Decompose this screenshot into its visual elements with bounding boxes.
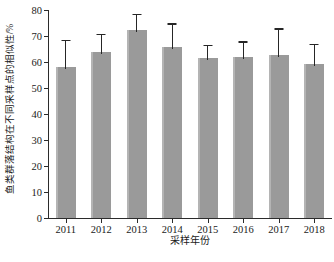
y-tick-mark (44, 192, 48, 193)
bar (56, 67, 76, 218)
bar (233, 57, 253, 218)
x-tick-mark (66, 219, 67, 223)
y-tick-mark (44, 218, 48, 219)
error-bar-cap (203, 45, 212, 46)
bar-highlight (56, 67, 58, 218)
error-bar-cap (61, 40, 70, 41)
x-axis-spine (48, 218, 332, 219)
chart-figure: 鱼类群落结构在不同采样点的相似性/% 01020304050607080 201… (0, 0, 334, 262)
y-tick-mark (44, 166, 48, 167)
y-tick-label: 80 (32, 5, 43, 16)
error-bar-line (278, 28, 279, 57)
bar-highlight (91, 52, 93, 218)
y-tick-label: 10 (32, 187, 43, 198)
x-tick-mark (208, 219, 209, 223)
y-tick-label: 20 (32, 161, 43, 172)
error-bar-line (207, 45, 208, 60)
y-axis-spine (48, 10, 49, 219)
bar-highlight (269, 55, 271, 218)
error-bar-line (136, 14, 137, 32)
x-tick-mark (172, 219, 173, 223)
bar-highlight (304, 64, 306, 218)
bar (162, 47, 182, 218)
bar (127, 30, 147, 218)
x-tick-mark (243, 219, 244, 223)
x-tick-mark (279, 219, 280, 223)
y-tick-mark (44, 140, 48, 141)
y-axis-title: 鱼类群落结构在不同采样点的相似性/% (2, 0, 18, 218)
y-tick-label: 70 (32, 31, 43, 42)
plot-area: 01020304050607080 2011201220132014201520… (48, 10, 332, 218)
error-bar-line (101, 34, 102, 54)
error-bar-line (314, 44, 315, 66)
y-tick-mark (44, 36, 48, 37)
error-bar-line (172, 23, 173, 49)
bar (198, 58, 218, 218)
bar (91, 52, 111, 218)
error-bar-cap (310, 44, 319, 45)
x-axis-title: 采样年份 (48, 232, 332, 247)
y-tick-mark (44, 114, 48, 115)
bar-highlight (127, 30, 129, 218)
bar-highlight (162, 47, 164, 218)
y-tick-mark (44, 88, 48, 89)
error-bar-cap (274, 28, 283, 29)
y-tick-mark (44, 10, 48, 11)
bar (304, 64, 324, 218)
bar-highlight (233, 57, 235, 218)
y-tick-label: 0 (37, 213, 42, 224)
error-bar-cap (239, 41, 248, 42)
y-tick-mark (44, 62, 48, 63)
error-bar-cap (97, 34, 106, 35)
y-tick-label: 40 (32, 109, 43, 120)
y-tick-label: 30 (32, 135, 43, 146)
error-bar-cap (168, 23, 177, 24)
x-tick-mark (137, 219, 138, 223)
error-bar-line (243, 41, 244, 59)
bar-highlight (198, 58, 200, 218)
x-tick-mark (101, 219, 102, 223)
y-tick-label: 60 (32, 57, 43, 68)
error-bar-cap (132, 14, 141, 15)
bar (269, 55, 289, 218)
y-tick-label: 50 (32, 83, 43, 94)
x-tick-mark (314, 219, 315, 223)
error-bar-line (65, 40, 66, 69)
